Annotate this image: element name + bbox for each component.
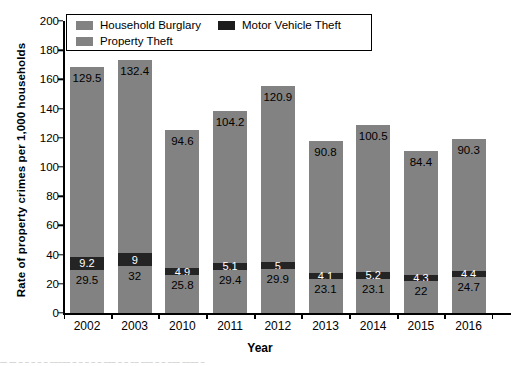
bar-segment-burg-2015[interactable]: 22 <box>404 281 438 313</box>
x-tick-mark <box>111 313 112 319</box>
legend-label: Household Burglary <box>100 19 201 31</box>
legend-label: Property Theft <box>100 35 173 47</box>
bar-segment-prop-2015[interactable]: 84.4 <box>404 151 438 274</box>
bar-value-label: 100.5 <box>356 131 390 143</box>
y-tick-label: 120 <box>40 132 59 144</box>
bar-value-label: 29.5 <box>70 275 104 287</box>
bar-2011[interactable]: 104.25.129.4 <box>213 111 247 313</box>
bar-2014[interactable]: 100.55.223.1 <box>356 125 390 313</box>
plot-area: 200180160140120100806040200129.59.229.51… <box>63 21 510 313</box>
bar-segment-burg-2012[interactable]: 29.9 <box>261 269 295 313</box>
bar-value-label: 132.4 <box>118 66 152 78</box>
y-tick-mark <box>58 137 63 138</box>
bar-value-label: 9.2 <box>70 258 104 269</box>
bar-2012[interactable]: 120.9529.9 <box>261 86 295 313</box>
y-tick-mark <box>58 49 63 50</box>
x-tick-mark <box>254 313 255 319</box>
bar-value-label: 84.4 <box>404 157 438 169</box>
bar-segment-prop-2010[interactable]: 94.6 <box>165 130 199 268</box>
x-tick-mark <box>159 313 160 319</box>
y-tick-mark <box>58 20 63 21</box>
cut-off-caption: — — – – – – – ––––– – – – – – ––– – – ––… <box>0 357 520 366</box>
bar-segment-prop-2012[interactable]: 120.9 <box>261 86 295 263</box>
legend-swatch-icon <box>218 21 235 30</box>
legend-item-motor-vehicle-theft: Motor Vehicle Theft <box>218 19 341 31</box>
x-tick-label-2016: 2016 <box>439 319 499 333</box>
y-tick-label: 100 <box>40 161 59 173</box>
bar-value-label: 129.5 <box>70 73 104 85</box>
bar-value-label: 23.1 <box>356 284 390 296</box>
bar-segment-prop-2013[interactable]: 90.8 <box>309 141 343 274</box>
y-tick-mark <box>58 108 63 109</box>
legend-swatch-icon <box>76 21 93 30</box>
bar-segment-mvt-2010[interactable]: 4.9 <box>165 268 199 275</box>
stacked-bar-chart: Rate of property crimes per 1,000 househ… <box>0 0 520 366</box>
bar-segment-mvt-2011[interactable]: 5.1 <box>213 263 247 270</box>
bar-segment-prop-2016[interactable]: 90.3 <box>452 139 486 271</box>
bar-segment-burg-2014[interactable]: 23.1 <box>356 279 390 313</box>
bar-value-label: 29.4 <box>213 275 247 287</box>
bar-segment-burg-2002[interactable]: 29.5 <box>70 270 104 313</box>
bar-value-label: 32 <box>118 271 152 283</box>
bar-segment-mvt-2003[interactable]: 9 <box>118 253 152 266</box>
bar-value-label: 24.7 <box>452 282 486 294</box>
bar-segment-burg-2013[interactable]: 23.1 <box>309 279 343 313</box>
y-tick-label: 180 <box>40 44 59 56</box>
bar-value-label: 94.6 <box>165 136 199 148</box>
bar-2015[interactable]: 84.44.322 <box>404 151 438 313</box>
legend-item-property-theft: Property Theft <box>76 35 173 47</box>
bar-segment-burg-2010[interactable]: 25.8 <box>165 275 199 313</box>
bar-segment-mvt-2014[interactable]: 5.2 <box>356 272 390 280</box>
bar-segment-burg-2016[interactable]: 24.7 <box>452 277 486 313</box>
y-tick-label: 140 <box>40 103 59 115</box>
bar-2016[interactable]: 90.34.424.7 <box>452 139 486 313</box>
bar-value-label: 23.1 <box>309 284 343 296</box>
x-tick-mark <box>64 313 65 319</box>
bar-value-label: 120.9 <box>261 92 295 104</box>
bar-value-label: 22 <box>404 286 438 298</box>
bar-2013[interactable]: 90.84.123.1 <box>309 141 343 313</box>
y-tick-mark <box>58 312 63 313</box>
bar-segment-burg-2011[interactable]: 29.4 <box>213 270 247 313</box>
x-tick-mark <box>350 313 351 319</box>
x-tick-mark <box>302 313 303 319</box>
bar-segment-prop-2014[interactable]: 100.5 <box>356 125 390 272</box>
bar-segment-burg-2003[interactable]: 32 <box>118 266 152 313</box>
y-tick-mark <box>58 166 63 167</box>
bar-segment-prop-2002[interactable]: 129.5 <box>70 67 104 256</box>
bar-value-label: 90.8 <box>309 147 343 159</box>
bar-segment-mvt-2012[interactable]: 5 <box>261 262 295 269</box>
bar-2010[interactable]: 94.64.925.8 <box>165 130 199 313</box>
y-tick-label: 160 <box>40 73 59 85</box>
bar-segment-prop-2003[interactable]: 132.4 <box>118 60 152 253</box>
bar-value-label: 25.8 <box>165 280 199 292</box>
x-tick-mark <box>397 313 398 319</box>
bar-segment-mvt-2002[interactable]: 9.2 <box>70 257 104 270</box>
legend-item-household-burglary: Household Burglary <box>76 19 201 31</box>
y-tick-mark <box>58 79 63 80</box>
x-tick-mark <box>445 313 446 319</box>
y-tick-mark <box>58 225 63 226</box>
y-axis-title: Rate of property crimes per 1,000 househ… <box>15 30 27 310</box>
y-tick-mark <box>58 283 63 284</box>
bar-2003[interactable]: 132.4932 <box>118 60 152 313</box>
y-tick-mark <box>58 195 63 196</box>
bar-segment-prop-2011[interactable]: 104.2 <box>213 111 247 263</box>
bar-value-label: 9 <box>118 254 152 265</box>
y-tick-mark <box>58 254 63 255</box>
x-tick-mark <box>492 313 493 319</box>
x-axis-title: Year <box>0 341 520 355</box>
bar-value-label: 104.2 <box>213 117 247 129</box>
bar-value-label: 29.9 <box>261 274 295 286</box>
legend-swatch-icon <box>76 37 93 46</box>
legend: Household Burglary Property Theft Motor … <box>66 14 372 51</box>
legend-label: Motor Vehicle Theft <box>242 19 341 31</box>
y-tick-label: 200 <box>40 15 59 27</box>
x-tick-mark <box>207 313 208 319</box>
bar-value-label: 90.3 <box>452 145 486 157</box>
bar-2002[interactable]: 129.59.229.5 <box>70 67 104 313</box>
